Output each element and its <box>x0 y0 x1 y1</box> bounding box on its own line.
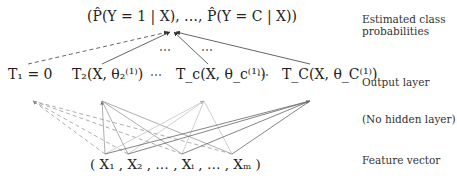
estimated-probabilities-vector: (P̂(Y = 1 | X), …, P̂(Y = C | X)) <box>87 8 297 24</box>
feature-vector: ( X₁ , X₂ , … , Xᵢ , … , Xₘ ) <box>90 156 261 172</box>
features-to-t2-edges <box>102 101 232 154</box>
label-output-layer: Output layer <box>362 76 429 88</box>
ellipsis-mid-left: ⋯ <box>159 43 171 57</box>
ellipsis-output-left: ⋯ <box>150 68 162 82</box>
label-no-hidden-layer: (No hidden layer) <box>362 113 456 125</box>
label-estimated-class: Estimated class <box>362 13 446 25</box>
label-probabilities: probabilities <box>362 25 429 37</box>
output-node-tc: T_c(X, θ_c⁽¹⁾) <box>176 66 266 82</box>
label-feature-vector: Feature vector <box>362 154 440 166</box>
output-node-t2: T₂(X, θ₂⁽¹⁾) <box>72 66 143 82</box>
output-node-t1: T₁ = 0 <box>8 66 53 82</box>
features-to-tC-edges <box>105 101 310 154</box>
ellipsis-output-right: ⋯ <box>257 68 269 82</box>
ellipsis-mid-right: ⋯ <box>201 43 213 57</box>
